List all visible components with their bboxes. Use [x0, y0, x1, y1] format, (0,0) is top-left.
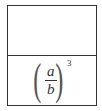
exponent: 3 — [67, 58, 72, 68]
denominator: b — [47, 81, 55, 98]
left-paren: ( — [33, 60, 41, 100]
table: ( a b ) 3 — [7, 5, 97, 106]
math-formula: ( a b ) 3 — [36, 60, 76, 102]
right-paren: ) — [55, 60, 63, 100]
table-cell-empty — [8, 6, 96, 56]
numerator: a — [47, 63, 55, 80]
table-cell-formula: ( a b ) 3 — [8, 56, 96, 105]
